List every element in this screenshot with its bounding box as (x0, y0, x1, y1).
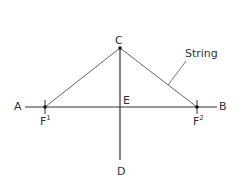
label-string: String (185, 48, 218, 59)
label-E: E (123, 95, 130, 106)
string-left (45, 48, 120, 107)
label-A: A (14, 101, 22, 112)
label-F2: F2 (193, 116, 204, 127)
label-B: B (219, 101, 227, 112)
string-leader-line (168, 61, 186, 85)
label-C: C (115, 35, 123, 46)
label-D: D (117, 166, 125, 177)
label-F1: F1 (40, 116, 51, 127)
focus-2-pin (195, 105, 199, 109)
ellipse-construction-diagram (0, 0, 240, 184)
focus-1-pin (43, 105, 47, 109)
